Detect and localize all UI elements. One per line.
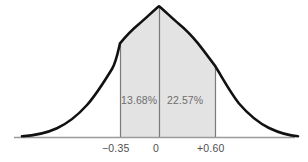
region-label-left: 13.68% bbox=[121, 94, 157, 106]
normal-distribution-figure: 13.68% 22.57% −0.35 0 +0.60 bbox=[0, 0, 308, 162]
axis-tick-label-plus-060: +0.60 bbox=[197, 142, 225, 154]
axis-tick-label-minus-035: −0.35 bbox=[102, 142, 130, 154]
axis-tick-label-zero: 0 bbox=[153, 142, 159, 154]
shaded-area-under-curve bbox=[120, 6, 215, 137]
region-label-right: 22.57% bbox=[167, 94, 203, 106]
normal-curve-plot bbox=[0, 0, 308, 162]
